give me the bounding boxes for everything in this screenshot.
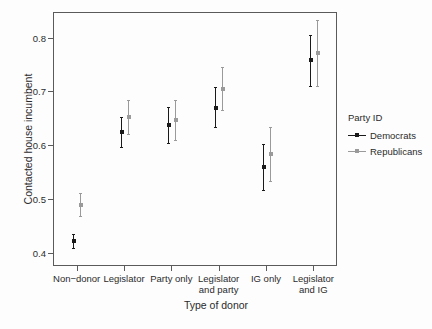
data-point bbox=[221, 87, 225, 91]
x-tick-label: Party only bbox=[150, 273, 192, 284]
x-tick-label: Non−donor bbox=[53, 273, 100, 284]
y-axis-title: Contacted house incumbent bbox=[22, 49, 34, 229]
error-bar-cap bbox=[120, 117, 123, 118]
y-tick-mark bbox=[48, 91, 53, 92]
error-bar-cap bbox=[167, 143, 170, 144]
error-bar-cap bbox=[269, 127, 272, 128]
legend-label: Democrats bbox=[370, 130, 416, 141]
x-tick-label: Legislatorand party bbox=[198, 273, 239, 295]
error-bar-cap bbox=[262, 144, 265, 145]
error-bar-cap bbox=[214, 87, 217, 88]
legend-item-democrats[interactable]: Democrats bbox=[348, 129, 432, 141]
x-tick-mark bbox=[77, 266, 78, 271]
data-point bbox=[174, 118, 178, 122]
data-point bbox=[120, 130, 124, 134]
legend-title: Party ID bbox=[348, 112, 432, 123]
y-tick-mark bbox=[48, 145, 53, 146]
error-bar-cap bbox=[262, 190, 265, 191]
error-bar-cap bbox=[214, 127, 217, 128]
legend-item-republicans[interactable]: Republicans bbox=[348, 145, 432, 157]
error-bar-cap bbox=[269, 181, 272, 182]
x-axis-title: Type of donor bbox=[0, 299, 432, 311]
error-bar-cap bbox=[174, 140, 177, 141]
x-tick-mark bbox=[171, 266, 172, 271]
data-point bbox=[309, 58, 313, 62]
x-tick-label: Legislator bbox=[103, 273, 144, 284]
y-tick-mark bbox=[48, 199, 53, 200]
chart-figure: 0.40.50.60.70.8 Non−donorLegislatorParty… bbox=[0, 0, 432, 329]
legend-key-icon bbox=[348, 130, 366, 140]
data-point bbox=[72, 239, 76, 243]
data-point bbox=[262, 165, 266, 169]
y-tick-label: 0.8 bbox=[22, 32, 46, 43]
error-bar-cap bbox=[127, 100, 130, 101]
error-bar-cap bbox=[79, 216, 82, 217]
error-bar-cap bbox=[72, 234, 75, 235]
data-point bbox=[167, 123, 171, 127]
error-bar-cap bbox=[309, 35, 312, 36]
x-tick-mark bbox=[124, 266, 125, 271]
error-bar-cap bbox=[79, 193, 82, 194]
error-bar-cap bbox=[127, 134, 130, 135]
x-tick-label: Legislatorand IG bbox=[293, 273, 334, 295]
data-point bbox=[316, 51, 320, 55]
legend-key-icon bbox=[348, 146, 366, 156]
legend-entries: DemocratsRepublicans bbox=[348, 129, 432, 157]
legend: Party ID DemocratsRepublicans bbox=[348, 112, 432, 161]
legend-label: Republicans bbox=[370, 146, 422, 157]
x-tick-mark bbox=[266, 266, 267, 271]
error-bar-cap bbox=[316, 20, 319, 21]
data-point bbox=[127, 115, 131, 119]
plot-area bbox=[53, 12, 337, 266]
error-bar-cap bbox=[167, 107, 170, 108]
error-bar-cap bbox=[309, 86, 312, 87]
x-tick-mark bbox=[313, 266, 314, 271]
error-bar-cap bbox=[316, 86, 319, 87]
x-tick-label: IG only bbox=[251, 273, 281, 284]
error-bar-cap bbox=[174, 100, 177, 101]
y-tick-label: 0.4 bbox=[22, 247, 46, 258]
error-bar-cap bbox=[120, 147, 123, 148]
data-point bbox=[79, 203, 83, 207]
x-tick-mark bbox=[219, 266, 220, 271]
data-point bbox=[269, 152, 273, 156]
error-bar-cap bbox=[72, 248, 75, 249]
y-tick-mark bbox=[48, 38, 53, 39]
error-bar-cap bbox=[221, 110, 224, 111]
y-tick-mark bbox=[48, 253, 53, 254]
data-point bbox=[214, 106, 218, 110]
error-bar-cap bbox=[221, 67, 224, 68]
